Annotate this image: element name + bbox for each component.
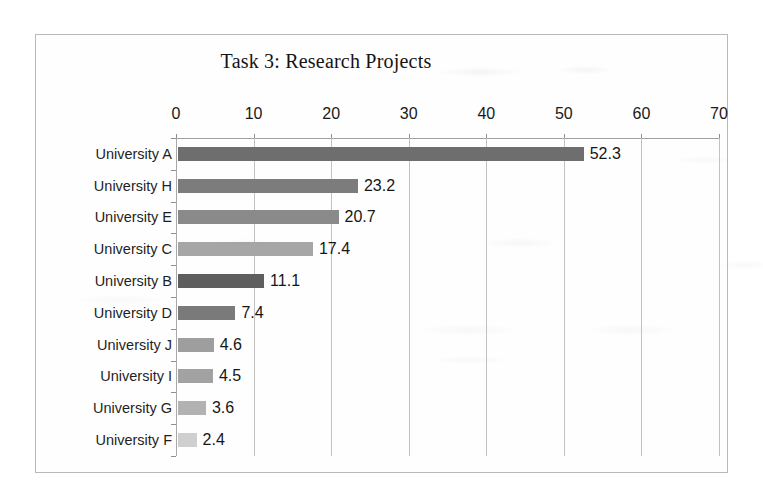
- bar-value-label: 52.3: [590, 145, 621, 163]
- bar-value-label: 2.4: [203, 431, 225, 449]
- category-label: University D: [94, 305, 172, 321]
- bar-value-label: 20.7: [345, 208, 376, 226]
- chart-title: Task 3: Research Projects: [36, 50, 616, 73]
- bar-value-label: 7.4: [241, 304, 263, 322]
- category-label: University C: [94, 241, 172, 257]
- bar-row: University I4.5: [176, 361, 719, 393]
- bar-value-label: 23.2: [364, 177, 395, 195]
- bar-value-label: 3.6: [212, 399, 234, 417]
- chart-frame: Task 3: Research Projects 01020304050607…: [35, 34, 728, 473]
- bar-row: University G3.6: [176, 392, 719, 424]
- bar-row: University H23.2: [176, 170, 719, 202]
- bar[interactable]: [178, 306, 235, 320]
- category-label: University F: [95, 432, 172, 448]
- bar-value-label: 4.5: [219, 367, 241, 385]
- bar-row: University F2.4: [176, 424, 719, 456]
- bar-value-label: 17.4: [319, 240, 350, 258]
- bar[interactable]: [178, 147, 584, 161]
- bar[interactable]: [178, 274, 264, 288]
- category-label: University A: [95, 146, 172, 162]
- bar-row: University B11.1: [176, 265, 719, 297]
- x-axis-tick-label: 70: [697, 105, 741, 123]
- x-axis-tick-label: 0: [154, 105, 198, 123]
- category-label: University G: [93, 400, 172, 416]
- category-label: University H: [94, 178, 172, 194]
- bar-value-label: 11.1: [270, 272, 300, 290]
- category-label: University I: [100, 368, 172, 384]
- bar[interactable]: [178, 242, 313, 256]
- x-axis-tick-label: 60: [619, 105, 663, 123]
- category-tick-mark: [171, 456, 176, 457]
- x-axis-tick-label: 30: [387, 105, 431, 123]
- x-axis-tick-label: 20: [309, 105, 353, 123]
- bar[interactable]: [178, 338, 214, 352]
- bar-row: University A52.3: [176, 138, 719, 170]
- category-axis-top-cap: [171, 138, 176, 139]
- x-axis-tick-label: 40: [464, 105, 508, 123]
- bar-value-label: 4.6: [220, 336, 242, 354]
- bar-row: University D7.4: [176, 297, 719, 329]
- x-axis-tick-label: 50: [542, 105, 586, 123]
- bar-row: University J4.6: [176, 329, 719, 361]
- category-label: University E: [95, 209, 172, 225]
- bar[interactable]: [178, 210, 339, 224]
- bar[interactable]: [178, 369, 213, 383]
- bar[interactable]: [178, 433, 197, 447]
- bar-row: University E20.7: [176, 202, 719, 234]
- plot-area: 010203040506070University A52.3Universit…: [176, 138, 719, 456]
- gridline-70: [719, 138, 720, 456]
- category-label: University J: [97, 337, 172, 353]
- bar[interactable]: [178, 179, 358, 193]
- category-label: University B: [95, 273, 172, 289]
- x-axis-tick-label: 10: [232, 105, 276, 123]
- bar[interactable]: [178, 401, 206, 415]
- bar-row: University C17.4: [176, 233, 719, 265]
